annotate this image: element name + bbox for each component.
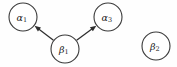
node-beta2[interactable]: β2	[142, 32, 170, 60]
node-alpha1[interactable]: α1	[9, 3, 37, 31]
node-beta1[interactable]: β1	[51, 35, 79, 63]
edge-beta1-to-alpha3	[77, 28, 94, 40]
edge-beta1-to-alpha1	[38, 28, 54, 40]
node-alpha3[interactable]: α3	[94, 3, 122, 31]
graph-canvas: α1 α3 β1 β2	[0, 0, 177, 67]
graph-diagram: α1 α3 β1 β2	[0, 0, 177, 67]
